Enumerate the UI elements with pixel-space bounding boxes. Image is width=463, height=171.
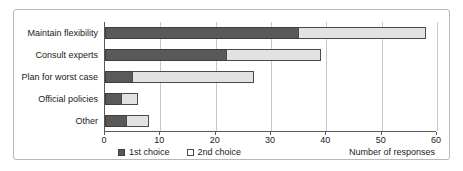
legend-swatch-icon (118, 149, 125, 156)
stacked-bar[interactable] (105, 27, 426, 39)
bar-segment-1[interactable] (105, 115, 127, 127)
bar-segment-2[interactable] (132, 71, 255, 83)
tick-label: 40 (320, 136, 330, 145)
stacked-bar[interactable] (105, 71, 254, 83)
bar-segment-2[interactable] (298, 27, 426, 39)
category-label: Plan for worst case (21, 73, 98, 82)
category-label: Consult experts (35, 51, 98, 60)
bar-segment-2[interactable] (126, 115, 149, 127)
chart-figure: Maintain flexibilityConsult expertsPlan … (13, 9, 450, 160)
chart-legend: 1st choice2nd choice (118, 148, 241, 157)
tick-label: 10 (154, 136, 164, 145)
bar-segment-1[interactable] (105, 49, 227, 61)
tick-label: 20 (210, 136, 220, 145)
category-label: Official policies (38, 95, 98, 104)
category-label: Maintain flexibility (27, 29, 98, 38)
bar-segment-2[interactable] (121, 93, 139, 105)
bar-segment-1[interactable] (105, 71, 133, 83)
bar-segment-2[interactable] (226, 49, 321, 61)
legend-item[interactable]: 2nd choice (187, 148, 242, 157)
plot-area: Maintain flexibilityConsult expertsPlan … (104, 22, 436, 132)
bar-row: Maintain flexibility (105, 22, 436, 44)
bar-rows: Maintain flexibilityConsult expertsPlan … (105, 22, 436, 131)
legend-item[interactable]: 1st choice (118, 148, 170, 157)
legend-label: 2nd choice (198, 148, 242, 157)
tick-label: 0 (101, 136, 106, 145)
bar-segment-1[interactable] (105, 93, 122, 105)
bar-row: Official policies (105, 88, 436, 110)
tick-label: 60 (431, 136, 441, 145)
tick-label: 30 (265, 136, 275, 145)
category-label: Other (75, 117, 98, 126)
bar-row: Other (105, 110, 436, 132)
bar-row: Consult experts (105, 44, 436, 66)
bar-segment-1[interactable] (105, 27, 299, 39)
tick-label: 50 (376, 136, 386, 145)
stacked-bar[interactable] (105, 93, 138, 105)
bar-row: Plan for worst case (105, 66, 436, 88)
x-axis-title: Number of responses (349, 148, 435, 157)
legend-swatch-icon (187, 149, 194, 156)
gridline (437, 22, 438, 131)
x-axis-ticks: 0102030405060 (104, 133, 436, 147)
stacked-bar[interactable] (105, 115, 149, 127)
legend-label: 1st choice (129, 148, 170, 157)
stacked-bar[interactable] (105, 49, 321, 61)
